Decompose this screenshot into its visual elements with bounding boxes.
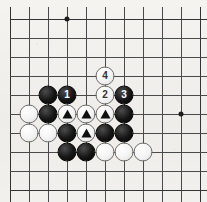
black-stone[interactable] — [58, 124, 77, 143]
black-stone[interactable] — [39, 105, 58, 124]
grid-line-vertical-8 — [162, 7, 163, 202]
white-stone[interactable] — [20, 105, 39, 124]
white-stone[interactable] — [115, 143, 134, 162]
white-stone[interactable] — [39, 124, 58, 143]
grid-line-horizontal-9 — [10, 190, 207, 191]
go-board: 1234 — [0, 0, 207, 202]
stone-move-number: 4 — [102, 71, 108, 81]
black-stone-move-3[interactable]: 3 — [115, 86, 134, 105]
white-stone[interactable] — [134, 143, 153, 162]
stone-move-number: 1 — [64, 90, 70, 100]
white-stone-marked[interactable] — [77, 105, 96, 124]
grid-line-horizontal-1 — [10, 38, 207, 39]
triangle-icon — [100, 110, 110, 119]
grid-line-horizontal-0 — [10, 19, 207, 20]
black-stone-move-1[interactable]: 1 — [58, 86, 77, 105]
white-stone[interactable] — [96, 143, 115, 162]
triangle-icon — [81, 129, 91, 138]
grid-line-vertical-7 — [143, 7, 144, 202]
black-stone[interactable] — [77, 143, 96, 162]
white-stone[interactable] — [20, 124, 39, 143]
triangle-icon — [81, 110, 91, 119]
black-stone[interactable] — [39, 86, 58, 105]
black-stone[interactable] — [96, 124, 115, 143]
grid-line-horizontal-2 — [10, 57, 207, 58]
white-stone-move-2[interactable]: 2 — [96, 86, 115, 105]
white-stone-move-4[interactable]: 4 — [96, 67, 115, 86]
white-stone-marked[interactable] — [58, 105, 77, 124]
grid-line-horizontal-8 — [10, 171, 207, 172]
grid-line-vertical-10 — [200, 7, 201, 202]
black-stone[interactable] — [115, 124, 134, 143]
black-stone[interactable] — [58, 143, 77, 162]
star-point-right — [179, 112, 184, 117]
star-point-top — [65, 17, 70, 22]
white-stone-marked[interactable] — [96, 105, 115, 124]
grid-line-vertical-9 — [181, 7, 182, 202]
stone-move-number: 2 — [102, 90, 108, 100]
white-stone-marked[interactable] — [77, 124, 96, 143]
grid-line-vertical-0 — [10, 7, 11, 202]
triangle-icon — [62, 110, 72, 119]
black-stone[interactable] — [115, 105, 134, 124]
stone-move-number: 3 — [121, 90, 127, 100]
